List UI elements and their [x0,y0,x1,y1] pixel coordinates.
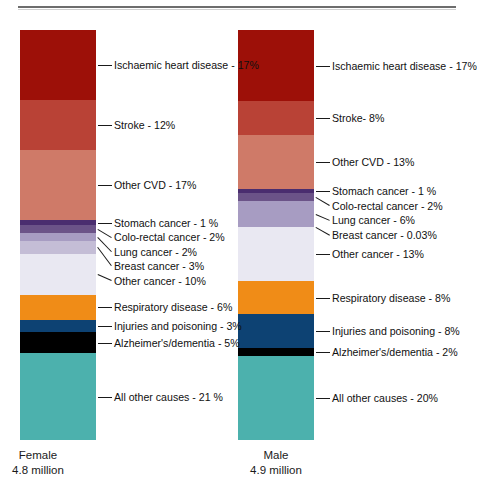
callout-label-female-other-cancer: Other cancer - 10% [114,275,206,287]
callout-label-female-other-cvd: Other CVD - 17% [114,179,196,191]
bar-segment-colo-rectal-cancer[interactable] [238,193,314,201]
bar-segment-alzheimer-s-dementia[interactable] [238,348,314,356]
callout-label-female-alzheimer-s-dementia: Alzheimer's/dementia - 5% [114,337,240,349]
callout-label-male-injuries-and-poisoning: Injuries and poisoning - 8% [332,325,460,337]
callout-label-female-stroke: Stroke - 12% [114,119,175,131]
callout-leader-female-colo-rectal-cancer [97,229,112,238]
callout-label-female-stomach-cancer: Stomach cancer - 1 % [114,217,218,229]
bar-segment-respiratory-disease[interactable] [20,295,96,320]
axis-label-male-name: Male [196,448,356,463]
bar-segment-colo-rectal-cancer[interactable] [20,225,96,233]
bar-segment-injuries-and-poisoning[interactable] [20,320,96,332]
callout-leader-male-other-cancer [316,254,330,255]
bar-segment-injuries-and-poisoning[interactable] [238,314,314,347]
callout-label-male-stroke: Stroke- 8% [332,112,384,124]
callout-leader-male-alzheimer-s-dementia [316,352,330,353]
callout-leader-female-respiratory-disease [98,307,112,308]
callout-leader-male-ischaemic-heart-disease [316,66,330,67]
callout-label-male-other-cvd: Other CVD - 13% [332,156,414,168]
callout-leader-male-breast-cancer [316,227,330,236]
callout-label-male-lung-cancer: Lung cancer - 6% [332,214,415,226]
callout-label-male-all-other-causes: All other causes - 20% [332,392,438,404]
bar-segment-other-cancer[interactable] [20,254,96,295]
axis-label-female: Female 4.8 million [0,448,118,478]
callout-leader-male-stroke [316,118,330,119]
callout-leader-female-stroke [98,125,112,126]
callout-leader-male-colo-rectal-cancer [315,197,330,206]
bar-segment-ischaemic-heart-disease[interactable] [20,30,96,100]
callout-leader-male-injuries-and-poisoning [316,331,330,332]
bar-segment-all-other-causes[interactable] [20,353,96,440]
callout-leader-male-all-other-causes [316,398,330,399]
callout-label-female-respiratory-disease: Respiratory disease - 6% [114,301,232,313]
callout-label-female-colo-rectal-cancer: Colo-rectal cancer - 2% [114,231,225,243]
callout-leader-female-other-cancer [98,274,112,281]
callout-label-female-ischaemic-heart-disease: Ischaemic heart disease - 17% [114,59,259,71]
callout-label-male-colo-rectal-cancer: Colo-rectal cancer - 2% [332,200,443,212]
callout-label-male-alzheimer-s-dementia: Alzheimer's/dementia - 2% [332,346,458,358]
callout-label-male-breast-cancer: Breast cancer - 0.03% [332,229,437,241]
bar-segment-other-cancer[interactable] [238,227,314,281]
bar-segment-lung-cancer[interactable] [20,233,96,241]
bar-group-female [20,30,96,440]
callout-leader-female-injuries-and-poisoning [98,326,112,327]
bar-segment-respiratory-disease[interactable] [238,281,314,314]
callout-leader-male-lung-cancer [316,214,330,221]
bar-segment-stroke[interactable] [20,100,96,150]
callout-leader-male-other-cvd [316,162,330,163]
callout-label-female-all-other-causes: All other causes - 21 % [114,391,223,403]
callout-leader-male-stomach-cancer [316,191,330,192]
axis-label-female-name: Female [0,448,118,463]
callout-label-male-respiratory-disease: Respiratory disease - 8% [332,292,450,304]
callout-leader-female-stomach-cancer [98,223,112,224]
axis-label-female-total: 4.8 million [0,463,118,478]
bar-segment-other-cvd[interactable] [238,135,314,189]
axis-label-male-total: 4.9 million [196,463,356,478]
callout-leader-male-respiratory-disease [316,298,330,299]
callout-leader-female-alzheimer-s-dementia [98,343,112,344]
header-divider [18,6,456,8]
callout-label-male-other-cancer: Other cancer - 13% [332,248,424,260]
bar-segment-all-other-causes[interactable] [238,356,314,440]
bar-segment-other-cvd[interactable] [20,150,96,220]
callout-label-female-breast-cancer: Breast cancer - 3% [114,260,204,272]
axis-label-male: Male 4.9 million [196,448,356,478]
stacked-bar-male[interactable] [238,30,314,440]
bar-segment-breast-cancer[interactable] [20,241,96,253]
bar-segment-stroke[interactable] [238,101,314,134]
callout-leader-female-all-other-causes [98,397,112,398]
bar-group-male [238,30,314,440]
callout-label-male-stomach-cancer: Stomach cancer - 1 % [332,185,436,197]
callout-label-female-injuries-and-poisoning: Injuries and poisoning - 3% [114,320,242,332]
header-divider-shadow [18,9,456,10]
callout-label-male-ischaemic-heart-disease: Ischaemic heart disease - 17% [332,60,477,72]
callout-label-female-lung-cancer: Lung cancer - 2% [114,246,197,258]
bar-segment-alzheimer-s-dementia[interactable] [20,332,96,353]
bar-segment-lung-cancer[interactable] [238,201,314,226]
callout-leader-female-ischaemic-heart-disease [98,65,112,66]
stacked-bar-female[interactable] [20,30,96,440]
callout-leader-female-other-cvd [98,185,112,186]
